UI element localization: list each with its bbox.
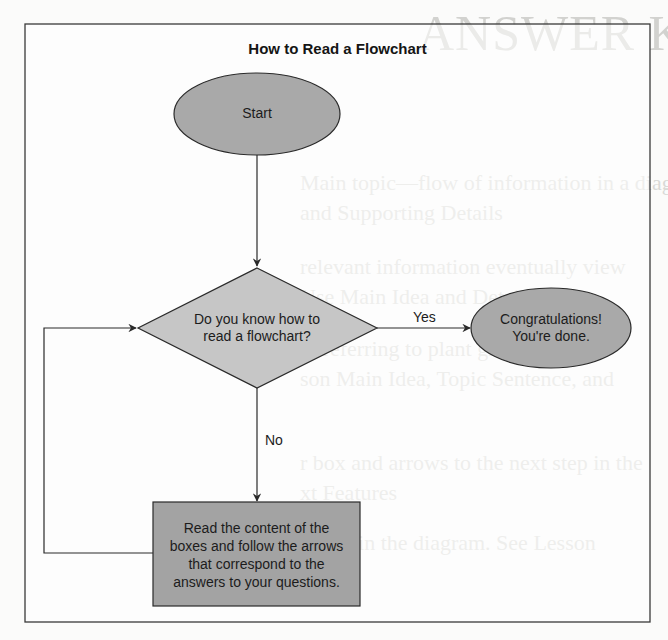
diagram-title: How to Read a Flowchart — [25, 40, 650, 57]
instructions-line-3: that correspond to the — [153, 555, 360, 573]
done-line-2: You're done. — [481, 328, 621, 345]
question-line-2: read a flowchart? — [167, 328, 347, 345]
start-text: Start — [242, 105, 272, 121]
node-start-label: Start — [197, 105, 317, 122]
instructions-line-2: boxes and follow the arrows — [153, 537, 360, 555]
node-done-label: Congratulations! You're done. — [481, 311, 621, 345]
question-line-1: Do you know how to — [167, 311, 347, 328]
edge-label-no: No — [265, 432, 283, 448]
instructions-line-1: Read the content of the — [153, 519, 360, 537]
node-question-label: Do you know how to read a flowchart? — [167, 311, 347, 345]
done-line-1: Congratulations! — [481, 311, 621, 328]
node-instructions-label: Read the content of the boxes and follow… — [153, 519, 360, 591]
instructions-line-4: answers to your questions. — [153, 573, 360, 591]
edge-label-yes: Yes — [413, 309, 436, 325]
